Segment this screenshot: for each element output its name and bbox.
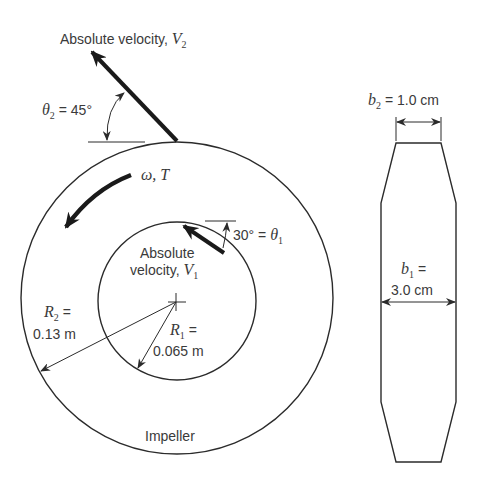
impeller-diagram: Absolute velocity, V2 θ2 = 45° ω, T 30° …: [0, 0, 485, 484]
inlet-width-value: 3.0 cm: [391, 282, 433, 298]
impeller-label: Impeller: [145, 428, 195, 444]
outlet-width-label: b2 = 1.0 cm: [368, 91, 439, 111]
inlet-angle-arc: [223, 223, 227, 248]
center-cross-icon: [168, 293, 186, 311]
inlet-velocity-label-line2: velocity, V1: [130, 261, 198, 281]
inlet-velocity-label-line1: Absolute: [140, 245, 195, 261]
rotation-label: ω, T: [141, 166, 170, 183]
outlet-angle-arc: [107, 93, 124, 140]
outlet-velocity-label: Absolute velocity, V2: [60, 30, 187, 50]
inlet-width-symbol: b1 =: [401, 260, 426, 280]
outlet-angle-label: θ2 = 45°: [42, 101, 92, 121]
outlet-velocity-arrow: [92, 52, 177, 141]
outer-radius-value: 0.13 m: [33, 326, 76, 342]
rotation-arrow: [66, 175, 131, 227]
outer-radius-symbol: R2 =: [43, 303, 71, 323]
inner-radius-symbol: R1 =: [169, 321, 197, 341]
inlet-angle-label: 30° = θ1: [233, 226, 283, 246]
outer-impeller-circle: [21, 142, 333, 454]
inner-radius-value: 0.065 m: [153, 343, 204, 359]
